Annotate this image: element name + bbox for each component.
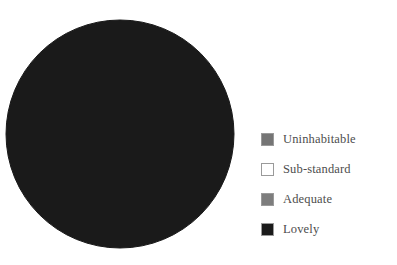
pie-svg xyxy=(0,0,250,265)
pie-plot-area xyxy=(0,0,250,265)
legend-swatch-uninhabitable xyxy=(261,133,274,146)
legend-swatch-adequate xyxy=(261,193,274,206)
pie-slice-lovely[interactable] xyxy=(6,20,234,248)
legend-label-lovely: Lovely xyxy=(283,222,319,237)
pie-slice-group xyxy=(6,20,234,248)
legend-item-sub-standard[interactable]: Sub-standard xyxy=(261,154,397,184)
pie-chart-figure: Uninhabitable Sub-standard Adequate Love… xyxy=(0,0,397,265)
legend-swatch-lovely xyxy=(261,223,274,236)
legend-item-uninhabitable[interactable]: Uninhabitable xyxy=(261,124,397,154)
legend-item-lovely[interactable]: Lovely xyxy=(261,214,397,244)
legend-label-adequate: Adequate xyxy=(283,192,332,207)
legend-label-sub-standard: Sub-standard xyxy=(283,162,351,177)
legend-swatch-sub-standard xyxy=(261,163,274,176)
legend-label-uninhabitable: Uninhabitable xyxy=(283,132,356,147)
chart-legend: Uninhabitable Sub-standard Adequate Love… xyxy=(261,124,397,244)
legend-item-adequate[interactable]: Adequate xyxy=(261,184,397,214)
